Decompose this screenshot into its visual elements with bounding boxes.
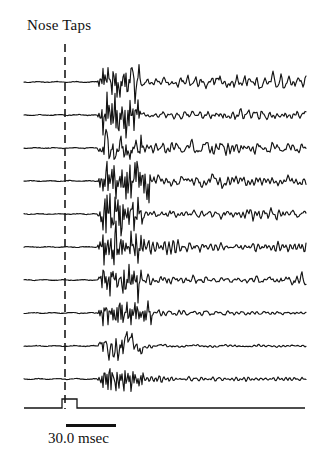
trace-5 — [24, 194, 306, 236]
trace-2 — [24, 92, 306, 138]
trace-10 — [24, 369, 306, 392]
figure-root: Nose Taps 30.0 msec — [0, 0, 317, 452]
trace-6 — [24, 221, 306, 265]
scale-bar — [66, 424, 116, 427]
stimulus-pulse-path — [24, 399, 305, 408]
trace-8 — [24, 301, 306, 326]
trace-4 — [24, 161, 306, 203]
trace-7 — [24, 264, 306, 303]
neural-traces — [24, 64, 306, 391]
trace-3 — [24, 129, 306, 159]
stimulus-pulse-trace — [24, 399, 305, 408]
trace-9 — [24, 332, 306, 361]
trace-plot-area — [0, 0, 317, 452]
trace-1 — [24, 64, 306, 103]
scale-bar-label: 30.0 msec — [48, 429, 109, 448]
